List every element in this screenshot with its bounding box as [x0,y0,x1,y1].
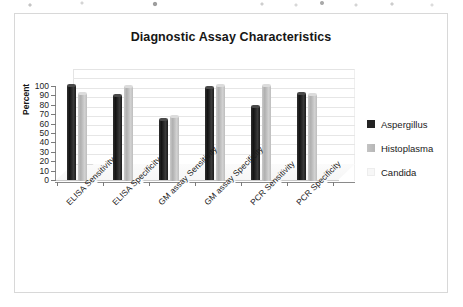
bar-aspergillus [205,88,214,180]
x-axis-tick [149,182,150,186]
bar-aspergillus [67,86,76,180]
y-axis-tick-label: 0 [21,176,49,185]
legend-item-histoplasma[interactable]: Histoplasma [367,136,462,160]
x-axis-tick [333,182,334,186]
legend-item-candida[interactable]: Candida [367,160,462,184]
y-axis-tick-label: 20 [21,157,49,166]
bar-aspergillus [297,94,306,180]
bar-top-cap [78,92,87,95]
y-axis-tick [51,133,56,134]
bar-histoplasma [216,86,225,181]
bar-top-cap [113,94,122,97]
y-axis-title: Percent [21,84,31,115]
legend-label: Candida [381,167,416,178]
bar-histoplasma [262,86,271,181]
bar-histoplasma [78,94,87,181]
chart-container: Diagnostic Assay Characteristics 1009080… [14,13,448,293]
y-axis-tick [51,124,56,125]
legend-label: Histoplasma [381,143,433,154]
gridline [73,78,355,79]
bar-top-cap [251,105,260,108]
x-axis-category-labels: ELISA SensitivityELISA SpecificityGM ass… [55,200,375,280]
y-axis-tick-label: 40 [21,138,49,147]
legend-swatch-icon [367,144,375,152]
y-axis-tick-label: 50 [21,129,49,138]
y-axis-tick-label: 60 [21,120,49,129]
chart-title: Diagnostic Assay Characteristics [15,30,447,44]
bar-aspergillus [159,120,168,180]
y-axis-tick [51,86,56,87]
y-axis-tick-label: 10 [21,167,49,176]
x-axis-tick [287,182,288,186]
legend-swatch-icon [367,168,375,176]
bar-aspergillus [113,96,122,180]
bar-aspergillus [251,107,260,180]
y-axis-tick [51,105,56,106]
bar-top-cap [159,118,168,121]
bar-top-cap [262,84,271,87]
y-axis-tick [51,180,56,181]
y-axis-tick [51,114,56,115]
bar-top-cap [308,93,317,96]
scanner-noise-artifact [0,0,463,12]
y-axis-tick [51,95,56,96]
chart-legend: AspergillusHistoplasmaCandida [367,112,462,184]
x-axis-tick [103,182,104,186]
y-axis-tick [51,161,56,162]
legend-swatch-icon [367,120,375,128]
legend-item-aspergillus[interactable]: Aspergillus [367,112,462,136]
bar-histoplasma [124,87,133,181]
bar-top-cap [170,115,179,118]
x-axis-tick [57,182,58,186]
bar-histoplasma [170,117,179,181]
bar-top-cap [67,84,76,87]
y-axis-tick [51,171,56,172]
x-axis-tick [195,182,196,186]
y-axis-tick-label: 30 [21,148,49,157]
bar-top-cap [124,85,133,88]
bar-top-cap [205,86,214,89]
bar-histoplasma [308,95,317,181]
legend-label: Aspergillus [381,119,427,130]
bar-top-cap [297,92,306,95]
y-axis-tick [51,142,56,143]
gridline [73,88,355,89]
bar-top-cap [216,84,225,87]
y-axis-tick [51,152,56,153]
x-axis-tick [241,182,242,186]
